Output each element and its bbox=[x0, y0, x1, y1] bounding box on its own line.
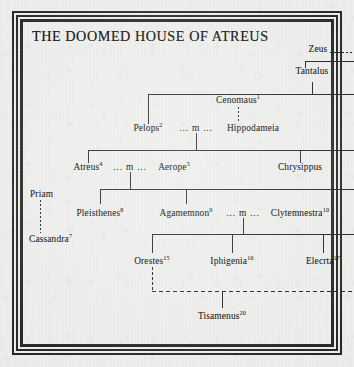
marriage-marker-agamemnon-clytemnestra: ... m ... bbox=[226, 208, 259, 219]
node-tisamenus: Tisamenus20 bbox=[198, 311, 246, 322]
edge-elecrta-stub bbox=[323, 234, 324, 253]
edge-atreus-union-down bbox=[130, 172, 131, 189]
marriage-marker-atreus-aerope: ... m ... bbox=[113, 162, 146, 173]
node-zeus-label: Zeus bbox=[309, 44, 328, 54]
edge-agamemnon-union-down bbox=[243, 218, 244, 234]
edge-tisamenus-stub bbox=[222, 291, 223, 308]
node-elecrta: Elecrta17 bbox=[306, 256, 340, 267]
node-tantalus-label: Tantalus bbox=[296, 66, 329, 76]
edge-pleisthenes-stub bbox=[100, 189, 101, 204]
node-aerope-note: 5 bbox=[187, 160, 190, 167]
page-title: THE DOOMED HOUSE OF ATREUS bbox=[32, 28, 269, 45]
family-tree-diagram: Zeus Tantalus Cenomaus1 Pelops2 ... m ..… bbox=[0, 0, 354, 367]
node-agamemnon-note: 9 bbox=[209, 206, 212, 213]
node-orestes: Orestes15 bbox=[134, 256, 170, 267]
node-cassandra-note: 7 bbox=[69, 232, 72, 239]
marriage-marker-label: ... m ... bbox=[179, 123, 212, 133]
node-tantalus: Tantalus bbox=[296, 66, 329, 77]
edge-pelops-stub bbox=[148, 94, 149, 124]
edge-priam-cassandra bbox=[40, 200, 41, 233]
node-cassandra: Cassandra7 bbox=[29, 234, 72, 245]
edge-iphigenia-stub bbox=[232, 234, 233, 253]
edge-zeus-down bbox=[341, 53, 342, 61]
node-pelops-label: Pelops bbox=[133, 123, 159, 133]
node-clytemnestra: Clytemnestra10 bbox=[271, 208, 329, 219]
edge-cenomaus-hippodameia bbox=[238, 107, 239, 123]
node-clytemnestra-label: Clytemnestra bbox=[271, 208, 323, 218]
node-chrysippus: Chrysippus bbox=[278, 162, 322, 173]
node-hippodameia: Hippodameia bbox=[227, 123, 279, 134]
node-zeus: Zeus bbox=[309, 44, 328, 55]
node-atreus-note: 4 bbox=[99, 160, 102, 167]
marriage-marker-pelops-hippodameia: ... m ... bbox=[179, 123, 212, 134]
node-hippodameia-label: Hippodameia bbox=[227, 123, 279, 133]
edge-orestes-down-dashed bbox=[152, 267, 153, 291]
scanned-page: THE DOOMED HOUSE OF ATREUS bbox=[0, 0, 354, 367]
edge-tantalus-down bbox=[312, 82, 313, 94]
node-clytemnestra-note: 10 bbox=[323, 206, 330, 213]
node-cassandra-label: Cassandra bbox=[29, 234, 69, 244]
node-atreus-label: Atreus bbox=[73, 162, 99, 172]
edge-pelops-children-spine bbox=[88, 150, 354, 151]
node-cenomaus-note: 1 bbox=[257, 93, 260, 100]
node-chrysippus-label: Chrysippus bbox=[278, 162, 322, 172]
node-atreus: Atreus4 bbox=[73, 162, 102, 173]
edge-pelops-union-down bbox=[196, 133, 197, 150]
node-pleisthenes: Pleisthenes8 bbox=[76, 208, 123, 219]
node-pelops-note: 2 bbox=[159, 121, 162, 128]
edge-agamemnon-stub bbox=[186, 189, 187, 204]
node-tisamenus-label: Tisamenus bbox=[198, 311, 240, 321]
node-pelops: Pelops2 bbox=[133, 123, 162, 134]
node-elecrta-note: 17 bbox=[334, 254, 341, 261]
node-aerope: Aerope5 bbox=[158, 162, 190, 173]
node-priam: Priam bbox=[30, 189, 53, 200]
edge-zeus-spine bbox=[305, 61, 354, 62]
edge-orestes-stub bbox=[152, 234, 153, 253]
node-iphigenia-note: 16 bbox=[247, 254, 254, 261]
node-pleisthenes-note: 8 bbox=[120, 206, 123, 213]
edge-atreus-children-spine bbox=[100, 189, 354, 190]
node-cenomaus: Cenomaus1 bbox=[216, 95, 260, 106]
node-cenomaus-label: Cenomaus bbox=[216, 95, 257, 105]
edge-zeus-marriage bbox=[330, 52, 354, 53]
marriage-marker-label: ... m ... bbox=[226, 208, 259, 218]
node-pleisthenes-label: Pleisthenes bbox=[76, 208, 120, 218]
marriage-marker-label: ... m ... bbox=[113, 162, 146, 172]
node-iphigenia: Iphigenia16 bbox=[210, 256, 253, 267]
node-orestes-label: Orestes bbox=[134, 256, 163, 266]
node-iphigenia-label: Iphigenia bbox=[210, 256, 247, 266]
node-orestes-note: 15 bbox=[163, 254, 170, 261]
node-agamemnon: Agamemnon9 bbox=[159, 208, 212, 219]
node-priam-label: Priam bbox=[30, 189, 53, 199]
edge-tisamenus-spine-dashed bbox=[152, 291, 354, 292]
node-aerope-label: Aerope bbox=[158, 162, 187, 172]
node-elecrta-label: Elecrta bbox=[306, 256, 334, 266]
node-agamemnon-label: Agamemnon bbox=[159, 208, 209, 218]
node-tisamenus-note: 20 bbox=[240, 309, 247, 316]
